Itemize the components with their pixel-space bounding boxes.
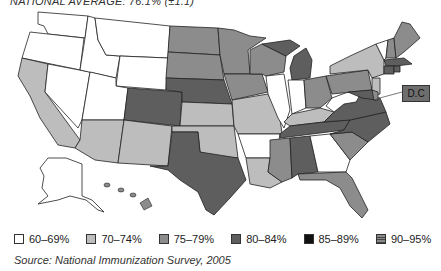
legend: 60–69% 70–74% 75–79% 80–84% 85–89% 90–95… <box>14 233 441 245</box>
state-fl <box>298 172 368 218</box>
legend-item-60-69: 60–69% <box>14 233 69 245</box>
state-nm <box>118 120 172 166</box>
source-note: Source: National Immunization Survey, 20… <box>14 254 231 266</box>
legend-label: 85–89% <box>319 233 359 245</box>
state-co <box>124 88 182 126</box>
state-nd <box>168 26 220 55</box>
legend-swatch <box>231 234 241 244</box>
legend-label: 80–84% <box>246 233 286 245</box>
legend-item-80-84: 80–84% <box>231 233 286 245</box>
legend-swatch <box>304 234 314 244</box>
state-mi <box>290 48 312 80</box>
legend-swatch <box>376 234 386 244</box>
legend-item-70-74: 70–74% <box>86 233 141 245</box>
state-hi <box>104 183 152 210</box>
state-az <box>75 120 124 163</box>
legend-label: 60–69% <box>29 233 69 245</box>
state-ri <box>394 66 400 72</box>
legend-swatch <box>14 234 24 244</box>
legend-swatch <box>159 234 169 244</box>
state-ak <box>38 158 104 212</box>
legend-label: 90–95% <box>391 233 431 245</box>
state-sd <box>166 52 224 80</box>
state-wy <box>116 56 168 90</box>
legend-label: 75–79% <box>174 233 214 245</box>
state-me <box>394 22 420 58</box>
state-ma <box>384 58 412 66</box>
legend-label: 70–74% <box>101 233 141 245</box>
legend-swatch <box>86 234 96 244</box>
us-choropleth-map <box>0 0 441 225</box>
state-ct <box>384 66 394 74</box>
legend-item-75-79: 75–79% <box>159 233 214 245</box>
legend-item-85-89: 85–89% <box>304 233 359 245</box>
state-ks <box>180 102 234 126</box>
state-mt <box>95 18 170 58</box>
dc-callout-label: D.C <box>402 85 430 102</box>
legend-item-90-95: 90–95% <box>376 233 431 245</box>
state-in <box>288 80 306 114</box>
